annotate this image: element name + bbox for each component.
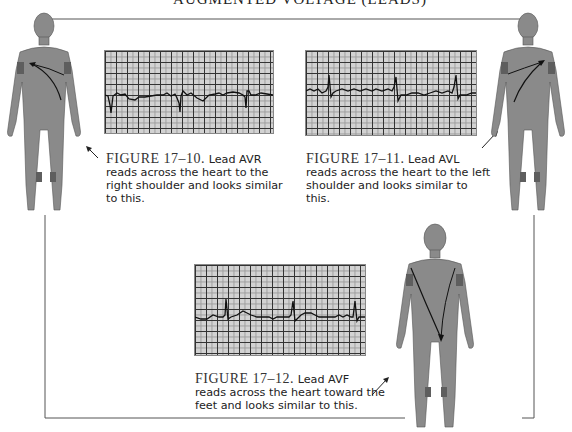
caption-figure-17-12: FIGURE 17–12. Lead AVF reads across the … [195, 372, 405, 412]
lead-name: Lead AVF [298, 373, 349, 386]
lead-name: Lead AVL [408, 153, 459, 166]
electrode-right-arm [17, 62, 24, 74]
figure-label: FIGURE 17–12. [195, 371, 294, 386]
ecg-trace-avf [195, 265, 365, 355]
ecg-strip-avf [194, 264, 366, 356]
electrode-left-arm [64, 62, 71, 74]
electrode-right-leg [36, 172, 42, 182]
body-figure-avr [2, 10, 86, 225]
caption-figure-17-11: FIGURE 17–11. Lead AVL reads across the … [306, 152, 501, 205]
caption-figure-17-10: FIGURE 17–10. Lead AVR reads across the … [106, 152, 296, 205]
lead-name: Lead AVR [209, 153, 262, 166]
ecg-trace-avr [105, 51, 273, 133]
figure-label: FIGURE 17–11. [306, 151, 405, 166]
electrode-left-leg [50, 172, 56, 182]
ecg-trace-avl [306, 51, 476, 135]
ecg-strip-avr [104, 50, 274, 134]
figure-label: FIGURE 17–10. [106, 151, 205, 166]
ecg-strip-avl [305, 50, 477, 136]
